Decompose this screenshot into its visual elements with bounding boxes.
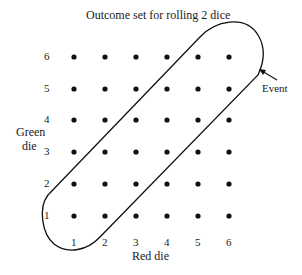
outcome-dot [71, 181, 76, 186]
outcome-dot [195, 86, 200, 91]
outcome-dot [133, 213, 138, 218]
arrow-head-icon [259, 69, 266, 75]
outcome-dot [195, 117, 200, 122]
outcome-dot [195, 54, 200, 59]
outcome-dot [226, 149, 231, 154]
outcome-dot [102, 149, 107, 154]
outcome-dot [164, 149, 169, 154]
outcome-dot [164, 86, 169, 91]
event-label: Event [262, 82, 288, 94]
outcome-dot [164, 181, 169, 186]
outcome-dot [133, 117, 138, 122]
outcome-dot [226, 181, 231, 186]
x-tick-label: 4 [164, 236, 170, 248]
x-tick-label: 3 [133, 236, 139, 248]
outcome-dot [195, 149, 200, 154]
y-tick-label: 3 [44, 145, 50, 157]
outcome-dot [226, 86, 231, 91]
outcome-dot [71, 86, 76, 91]
y-tick-label: 6 [44, 50, 50, 62]
outcome-dot [195, 181, 200, 186]
y-tick-label: 4 [44, 113, 50, 125]
x-axis-title: Red die [132, 250, 169, 262]
x-tick-label: 1 [71, 236, 77, 248]
outcome-dot [226, 213, 231, 218]
outcome-dot [102, 54, 107, 59]
outcome-dot [133, 181, 138, 186]
outcome-dot [102, 181, 107, 186]
outcome-dot [226, 117, 231, 122]
outcome-dot [164, 213, 169, 218]
outcome-dot [71, 117, 76, 122]
x-tick-label: 5 [195, 236, 201, 248]
outcome-dot [71, 149, 76, 154]
outcome-dot [71, 213, 76, 218]
outcome-dot [164, 54, 169, 59]
outcome-dot [164, 117, 169, 122]
outcome-dot [102, 213, 107, 218]
outcome-dot [102, 117, 107, 122]
outcome-dot [133, 149, 138, 154]
x-tick-label: 2 [102, 236, 108, 248]
y-tick-label: 2 [44, 177, 50, 189]
y-tick-label: 5 [44, 82, 50, 94]
y-axis-title-line1: Green [16, 126, 45, 138]
y-axis-title-line2: die [22, 140, 37, 152]
x-tick-label: 6 [226, 236, 232, 248]
y-tick-label: 1 [44, 209, 50, 221]
outcome-dot [226, 54, 231, 59]
outcome-dot [133, 54, 138, 59]
outcome-dot [133, 86, 138, 91]
outcome-dot [102, 86, 107, 91]
outcome-dot [195, 213, 200, 218]
outcome-dot [71, 54, 76, 59]
